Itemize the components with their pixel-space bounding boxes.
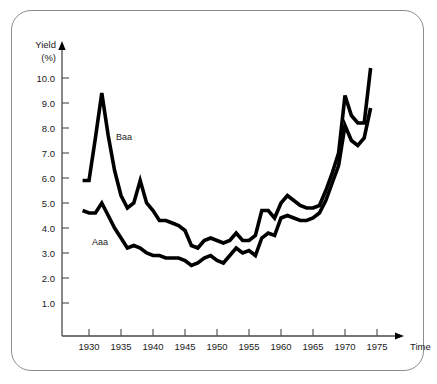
x-tick-label: 1935: [110, 341, 131, 352]
x-tick-label: 1970: [334, 341, 355, 352]
y-tick-label: 4.0: [42, 223, 55, 234]
y-tick-label: 2.0: [42, 273, 55, 284]
y-axis-title-line1: Yield: [35, 39, 56, 50]
y-axis-group: [58, 41, 65, 336]
y-tick-label: 10.0: [37, 73, 56, 84]
yield-chart: Yield (%) Time 1.02.03.04.05.06.07.08.09…: [0, 0, 437, 384]
y-tick-label: 3.0: [42, 248, 55, 259]
y-axis-title-line2: (%): [41, 52, 56, 63]
y-tick-label: 7.0: [42, 148, 55, 159]
y-tick-label: 1.0: [42, 298, 55, 309]
x-tick-label: 1940: [142, 341, 163, 352]
x-tick-label: 1965: [302, 341, 323, 352]
x-axis-title: Time: [410, 341, 431, 352]
x-axis-group: [62, 332, 404, 339]
x-tick-label: 1945: [174, 341, 195, 352]
x-axis-arrow-icon: [395, 332, 404, 339]
y-tick-label: 8.0: [42, 123, 55, 134]
x-tick-label: 1950: [206, 341, 227, 352]
x-tick-label: 1930: [78, 341, 99, 352]
series-label-aaa: Aaa: [92, 237, 108, 247]
y-tick-label: 5.0: [42, 198, 55, 209]
data-line-baa: [83, 68, 371, 248]
x-tick-label: 1960: [270, 341, 291, 352]
x-tick-label: 1975: [366, 341, 387, 352]
x-tick-label: 1955: [238, 341, 259, 352]
y-axis-arrow-icon: [58, 41, 65, 50]
y-tick-label: 6.0: [42, 173, 55, 184]
y-tick-label: 9.0: [42, 98, 55, 109]
series-label-baa: Baa: [116, 132, 132, 142]
y-axis-ticks: 1.02.03.04.05.06.07.08.09.010.0: [37, 73, 70, 309]
x-axis-ticks: 1930193519401945195019551960196519701975: [78, 329, 387, 352]
